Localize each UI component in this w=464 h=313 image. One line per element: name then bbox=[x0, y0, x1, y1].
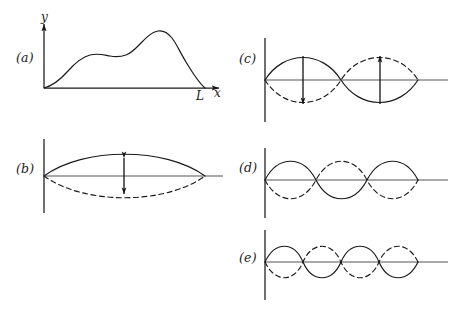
panel-a-wave-curve bbox=[44, 31, 205, 88]
panel-label-c: (c) bbox=[239, 51, 256, 66]
panel-b bbox=[44, 139, 223, 213]
panel-label-a: (a) bbox=[16, 50, 34, 65]
panel-label-e: (e) bbox=[239, 250, 257, 265]
panel-d bbox=[265, 148, 448, 218]
y-axis-label: y bbox=[41, 10, 48, 24]
panel-a bbox=[44, 24, 219, 88]
standing-waves-figure: (a) (b) (c) (d) (e) y L x bbox=[0, 0, 464, 313]
length-label: L bbox=[196, 89, 204, 103]
panel-label-b: (b) bbox=[16, 161, 34, 176]
panel-c bbox=[265, 38, 448, 122]
x-axis-label: x bbox=[214, 86, 221, 100]
panel-e bbox=[265, 230, 448, 300]
panel-label-d: (d) bbox=[239, 160, 257, 175]
figure-canvas bbox=[0, 0, 464, 313]
